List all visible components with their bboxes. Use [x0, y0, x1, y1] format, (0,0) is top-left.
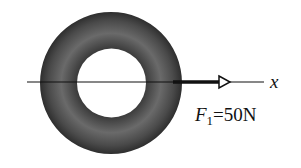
torus: [40, 12, 182, 154]
force-symbol: F: [195, 104, 207, 125]
x-axis-label: x: [270, 71, 278, 93]
force-label: F1=50N: [195, 104, 257, 129]
diagram-canvas: [0, 0, 301, 168]
force-arrowhead-icon: [219, 76, 230, 88]
force-value: =50N: [213, 104, 256, 125]
